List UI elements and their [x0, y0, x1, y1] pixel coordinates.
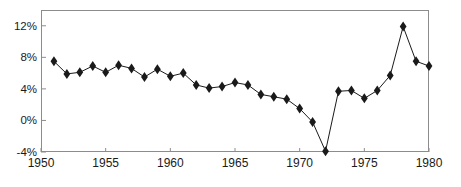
data-point-marker: [180, 68, 187, 78]
x-axis-tick-label: 1955: [92, 156, 119, 170]
data-point-marker: [154, 64, 161, 74]
y-axis-tick-label: 0%: [1, 114, 37, 126]
data-point-marker: [335, 86, 342, 96]
x-axis-ticks: [41, 148, 429, 152]
data-point-marker: [128, 63, 135, 73]
data-point-marker: [89, 61, 96, 71]
data-point-marker: [63, 69, 70, 79]
data-point-marker: [361, 93, 368, 103]
x-axis-tick-label: 1965: [222, 156, 249, 170]
data-point-marker: [309, 117, 316, 127]
data-point-marker: [206, 83, 213, 93]
chart-container: -4%0%4%8%12% 195019551960196519701975198…: [0, 0, 461, 187]
x-axis-tick-label: 1980: [416, 156, 443, 170]
x-axis-tick-label: 1970: [286, 156, 313, 170]
data-point-marker: [51, 56, 58, 66]
x-axis-tick-label: 1950: [28, 156, 55, 170]
data-point-marker: [257, 89, 264, 99]
x-axis-tick-label: 1960: [157, 156, 184, 170]
data-point-marker: [102, 67, 109, 77]
data-point-marker: [115, 60, 122, 70]
data-point-marker: [296, 104, 303, 114]
y-axis-ticks: [41, 26, 46, 152]
y-axis-tick-label: 12%: [1, 20, 37, 32]
data-point-marker: [167, 71, 174, 81]
data-point-marker: [322, 146, 329, 156]
data-point-marker: [348, 85, 355, 95]
data-point-marker: [283, 94, 290, 104]
y-axis-tick-label: 4%: [1, 83, 37, 95]
data-line: [54, 27, 429, 152]
data-point-marker: [270, 92, 277, 102]
data-point-marker: [193, 80, 200, 90]
x-axis-labels: 1950195519601965197019751980: [0, 156, 461, 176]
data-point-marker: [400, 22, 407, 32]
y-axis-tick-label: 8%: [1, 51, 37, 63]
data-point-marker: [232, 78, 239, 88]
data-point-marker: [219, 82, 226, 92]
data-markers: [51, 22, 433, 157]
data-point-marker: [245, 80, 252, 90]
data-point-marker: [76, 67, 83, 77]
x-axis-tick-label: 1975: [351, 156, 378, 170]
data-point-marker: [141, 72, 148, 82]
data-point-marker: [426, 61, 433, 71]
data-point-marker: [413, 56, 420, 66]
